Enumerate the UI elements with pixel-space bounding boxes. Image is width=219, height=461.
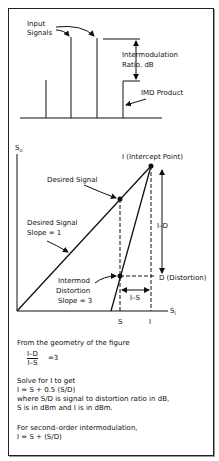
intermod-label: Intermod [58, 277, 90, 285]
distortion-label: D (Distortion) [159, 274, 207, 282]
formula-third-order: I = S + 0.5 (S/D) [17, 386, 75, 394]
fraction-numerator: I–D [27, 350, 38, 359]
input-signals-label-2: Signals [27, 29, 53, 37]
fraction: I–D I–S [27, 350, 38, 367]
fraction-equals: =3 [48, 354, 58, 362]
s-tick-label: S [118, 318, 123, 326]
desired-slope-label: Desired Signal [27, 219, 78, 227]
intermod-point [118, 274, 123, 279]
intercept-label: I (Intercept Point) [122, 153, 183, 161]
spectrum-plot [20, 26, 162, 118]
desired-slope-label-2: Slope = 1 [27, 229, 61, 237]
second-order-text: For second–order intermodulation, [17, 424, 138, 432]
desired-signal-point [118, 197, 123, 202]
where-text: where S/D is signal to distortion ratio … [17, 395, 169, 403]
y-axis-label: So [15, 144, 23, 153]
intermod-label-3: Slope = 3 [58, 297, 92, 305]
intercept-point [149, 164, 154, 169]
i-minus-d-label: I–D [157, 222, 168, 230]
imd-product-label: IMD Product [141, 89, 184, 97]
ratio-label: Intermodulation [122, 51, 178, 59]
formula-second-order: I = S + (S/D) [17, 433, 62, 441]
solve-text: Solve for I to get [17, 377, 75, 385]
i-tick-label: I [149, 318, 151, 326]
geometry-text: From the geometry of the figure [17, 339, 129, 347]
fraction-denominator: I–S [27, 359, 38, 367]
x-axis-label: Si [170, 307, 176, 316]
desired-signal-label: Desired Signal [47, 176, 98, 184]
intermod-label-2: Distortion [56, 287, 90, 295]
input-signals-label: Input [27, 20, 45, 28]
units-text: S is in dBm and I is in dBm. [17, 404, 113, 412]
i-minus-s-label: I–S [130, 294, 141, 302]
ratio-label-2: Ratio, dB [122, 61, 154, 69]
